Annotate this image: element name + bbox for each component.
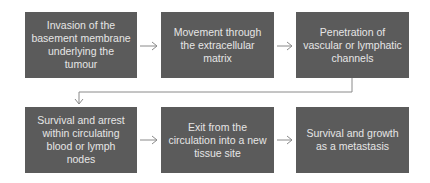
step-label: Penetration of vascular or lymphatic cha… bbox=[302, 26, 403, 65]
step-label: Invasion of the basement membrane underl… bbox=[31, 19, 131, 71]
arrow-down-connector-icon bbox=[75, 78, 352, 104]
step-exit: Exit from the circulation into a new tis… bbox=[161, 107, 274, 173]
step-invasion: Invasion of the basement membrane underl… bbox=[25, 12, 137, 78]
step-metastasis: Survival and growth as a metastasis bbox=[296, 107, 409, 173]
arrow-right-icon bbox=[140, 42, 157, 50]
step-survival-arrest: Survival and arrest within circulating b… bbox=[25, 107, 137, 173]
step-label: Movement through the extracellular matri… bbox=[167, 26, 268, 65]
arrow-right-icon bbox=[140, 136, 157, 144]
arrow-right-icon bbox=[277, 42, 292, 50]
step-label: Exit from the circulation into a new tis… bbox=[167, 121, 268, 160]
step-label: Survival and arrest within circulating b… bbox=[31, 114, 131, 166]
step-movement: Movement through the extracellular matri… bbox=[161, 12, 274, 78]
step-penetration: Penetration of vascular or lymphatic cha… bbox=[296, 12, 409, 78]
arrow-right-icon bbox=[277, 136, 292, 144]
step-label: Survival and growth as a metastasis bbox=[302, 127, 403, 153]
